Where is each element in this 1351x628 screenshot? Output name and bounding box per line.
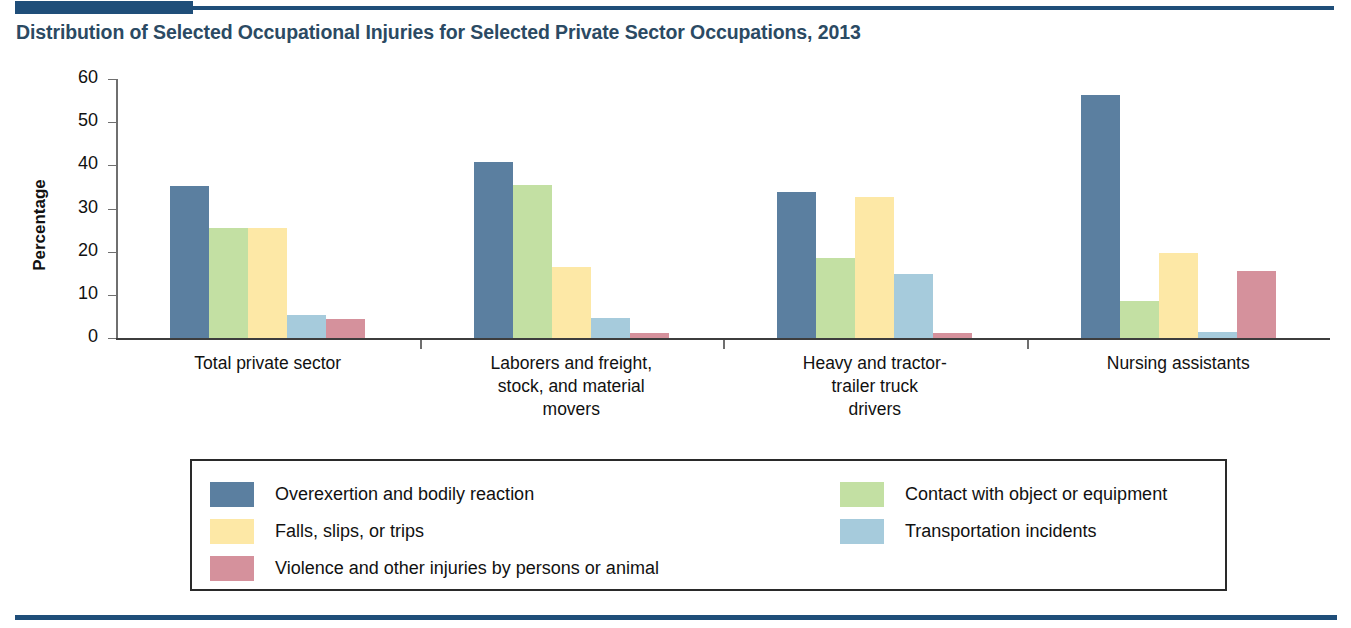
x-axis-category-label-line: Total private sector	[116, 352, 420, 375]
bar	[816, 258, 855, 338]
legend-item: Falls, slips, or trips	[210, 514, 830, 548]
y-axis-title: Percentage	[30, 165, 50, 285]
legend-column-left: Overexertion and bodily reactionFalls, s…	[210, 477, 830, 588]
x-axis-category-label-line: stock, and material	[420, 375, 724, 398]
x-axis-category-label-line: Nursing assistants	[1027, 352, 1331, 375]
x-axis-group-separator	[420, 340, 422, 349]
legend-item: Contact with object or equipment	[840, 477, 1220, 511]
legend-swatch-icon	[840, 482, 884, 507]
x-axis-category-label-line: trailer truck	[723, 375, 1027, 398]
bar	[170, 186, 209, 338]
bar	[591, 318, 630, 338]
bar	[1198, 332, 1237, 338]
bar	[474, 162, 513, 338]
y-axis-tick-label: 10	[12, 284, 98, 302]
x-axis-category-label: Total private sector	[116, 352, 420, 375]
legend-label: Contact with object or equipment	[905, 484, 1167, 505]
x-axis-category-label-line: drivers	[723, 398, 1027, 421]
y-axis-tick-label: 30	[12, 198, 98, 216]
legend-item: Transportation incidents	[840, 514, 1220, 548]
legend-swatch-icon	[210, 556, 254, 581]
bar	[1159, 253, 1198, 338]
bar	[933, 333, 972, 338]
x-axis-category-label-line: Laborers and freight,	[420, 352, 724, 375]
legend-label: Violence and other injuries by persons o…	[275, 558, 659, 579]
bar	[777, 192, 816, 338]
x-axis-group-separator	[723, 340, 725, 349]
bar	[287, 315, 326, 338]
bar	[894, 274, 933, 338]
footer-rule	[15, 615, 1337, 620]
legend-column-right: Contact with object or equipmentTranspor…	[840, 477, 1220, 551]
bar	[326, 319, 365, 338]
bar	[248, 228, 287, 338]
legend-swatch-icon	[840, 519, 884, 544]
bar	[1120, 301, 1159, 338]
plot-area	[116, 79, 1330, 338]
chart-legend: Overexertion and bodily reactionFalls, s…	[190, 459, 1227, 591]
bar	[513, 185, 552, 338]
bar	[552, 267, 591, 338]
y-axis-tick-label: 60	[12, 68, 98, 86]
x-axis-group-separator	[1027, 340, 1029, 349]
bar	[1081, 95, 1120, 338]
legend-swatch-icon	[210, 482, 254, 507]
header-rule	[193, 6, 1334, 10]
x-axis-category-label-line: Heavy and tractor-	[723, 352, 1027, 375]
legend-item: Violence and other injuries by persons o…	[210, 551, 830, 585]
bar	[209, 228, 248, 339]
x-axis-category-label: Laborers and freight,stock, and material…	[420, 352, 724, 421]
header-accent-block	[15, 1, 193, 14]
x-axis-category-label-line: movers	[420, 398, 724, 421]
y-axis-tick-label: 20	[12, 241, 98, 259]
legend-label: Falls, slips, or trips	[275, 521, 424, 542]
bar	[855, 197, 894, 338]
page-title: Distribution of Selected Occupational In…	[16, 21, 861, 44]
legend-swatch-icon	[210, 519, 254, 544]
legend-label: Transportation incidents	[905, 521, 1096, 542]
chart-canvas: Percentage 0102030405060 Total private s…	[0, 60, 1351, 450]
bar	[630, 333, 669, 338]
y-axis-tick-label: 50	[12, 111, 98, 129]
y-axis-tick-label: 0	[12, 327, 98, 345]
legend-item: Overexertion and bodily reaction	[210, 477, 830, 511]
x-axis-category-label: Heavy and tractor-trailer truckdrivers	[723, 352, 1027, 421]
legend-label: Overexertion and bodily reaction	[275, 484, 534, 505]
x-axis-category-label: Nursing assistants	[1027, 352, 1331, 375]
y-axis-tick-label: 40	[12, 154, 98, 172]
bar	[1237, 271, 1276, 338]
